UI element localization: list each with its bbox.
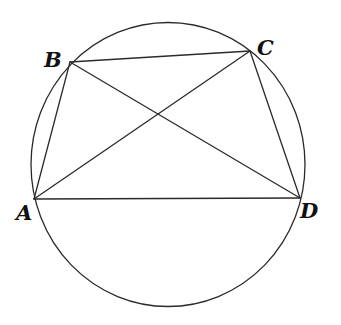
vertex-label-c: C xyxy=(257,37,274,58)
circumscribed-circle xyxy=(31,23,305,307)
segment-bc xyxy=(70,51,250,62)
diagonal-bd xyxy=(70,62,300,198)
cyclic-quadrilateral-diagram: A B C D xyxy=(0,0,341,325)
vertex-label-a: A xyxy=(16,202,32,223)
vertex-label-d: D xyxy=(300,200,318,221)
vertex-label-b: B xyxy=(44,49,62,70)
segment-da xyxy=(34,198,300,199)
segment-cd xyxy=(250,51,300,198)
